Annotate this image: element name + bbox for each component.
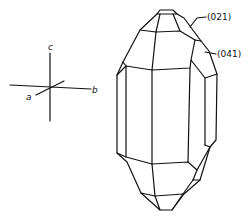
- crystal: [117, 10, 217, 210]
- lower-ring-edges: [141, 193, 183, 196]
- c-axis-label: c: [48, 42, 53, 52]
- a-axis-label: a: [26, 92, 32, 102]
- edge: [117, 66, 126, 75]
- face-label-021: (021): [207, 12, 231, 22]
- edge: [152, 164, 155, 196]
- edge: [152, 32, 156, 70]
- edge: [193, 170, 197, 180]
- edge: [173, 14, 180, 31]
- top-face: [157, 10, 177, 14]
- edge: [156, 14, 160, 32]
- b-axis-label: b: [92, 85, 98, 95]
- edge: [191, 40, 195, 60]
- upper-ring-edges: [140, 30, 195, 40]
- leader-021: [190, 17, 206, 27]
- edge: [172, 194, 183, 210]
- edge: [205, 145, 210, 147]
- crystallographic-axes: c b a: [10, 42, 98, 121]
- edge: [188, 68, 190, 162]
- crystal-outline: [117, 14, 217, 210]
- prism-top-edges: [123, 60, 217, 78]
- prism-bottom-edges: [117, 147, 210, 170]
- crystal-diagram: c b a (02: [0, 0, 252, 216]
- face-label-041: (041): [217, 49, 241, 59]
